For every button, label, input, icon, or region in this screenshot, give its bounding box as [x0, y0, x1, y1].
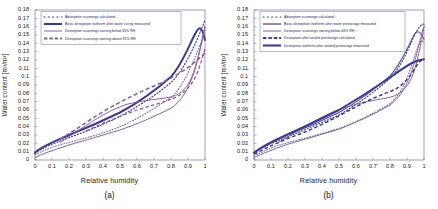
x-tick-b-1: 0.1	[263, 164, 279, 170]
x-tick-a-8: 0.8	[163, 164, 179, 170]
x-tick-b-0: 0	[246, 164, 262, 170]
x-tick-b-6: 0.6	[348, 164, 364, 170]
x-tick-a-0: 0	[27, 164, 43, 170]
panel-caption-a: (a)	[0, 191, 219, 200]
x-tick-a-9: 0.9	[180, 164, 196, 170]
panel-a: Adsorption scannings calculated Basic de…	[0, 0, 219, 209]
x-tick-b-10: 1	[416, 164, 432, 170]
x-tick-b-9: 0.9	[399, 164, 415, 170]
x-axis-label-a: Relative humidity	[0, 176, 219, 185]
x-tick-a-3: 0.3	[78, 164, 94, 170]
x-tick-a-5: 0.5	[112, 164, 128, 170]
x-tick-b-5: 0.5	[331, 164, 347, 170]
x-axis-label-b: Relative humidity	[219, 176, 438, 185]
x-tick-b-7: 0.7	[365, 164, 381, 170]
x-tick-a-6: 0.6	[129, 164, 145, 170]
x-tick-b-3: 0.3	[297, 164, 313, 170]
x-tick-a-1: 0.1	[44, 164, 60, 170]
x-tick-a-4: 0.4	[95, 164, 111, 170]
x-tick-a-7: 0.7	[146, 164, 162, 170]
x-tick-a-10: 1	[197, 164, 213, 170]
panel-caption-b: (b)	[219, 191, 438, 200]
plot-a: Adsorption scannings calculated Basic de…	[0, 0, 219, 209]
x-tick-b-4: 0.4	[314, 164, 330, 170]
x-tick-b-8: 0.8	[382, 164, 398, 170]
x-tick-a-2: 0.2	[61, 164, 77, 170]
x-tick-b-2: 0.2	[280, 164, 296, 170]
figure-two-panel-sorption-isotherms: Adsorption scannings calculated Basic de…	[0, 0, 438, 209]
panel-b: Adsorption scannings calculated Basic de…	[219, 0, 438, 209]
plot-b: Adsorption scannings calculated Basic de…	[219, 0, 438, 209]
